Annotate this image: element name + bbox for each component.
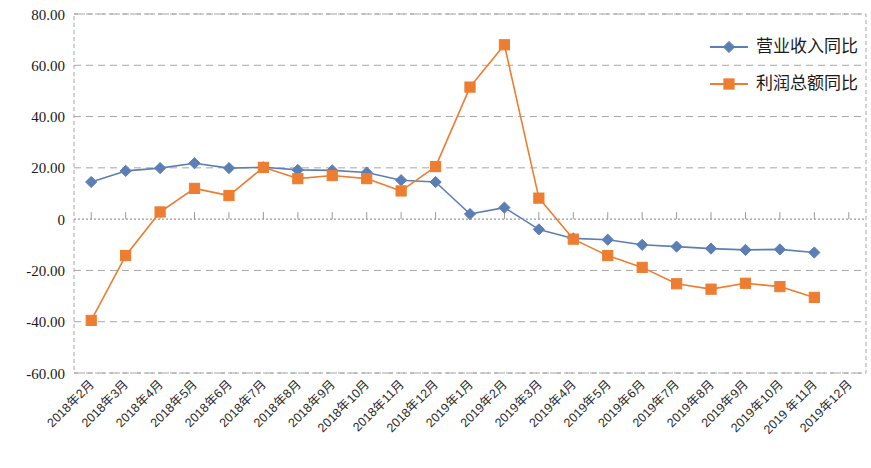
data-point-marker [224, 190, 234, 200]
data-point-marker [86, 315, 96, 325]
data-point-marker [121, 250, 131, 260]
data-point-marker [603, 250, 613, 260]
data-point-marker [568, 234, 578, 244]
y-axis-tick-label: 60.00 [31, 58, 65, 74]
data-point-marker [465, 82, 475, 92]
data-point-marker [189, 183, 199, 193]
data-point-marker [637, 262, 647, 272]
data-point-marker [430, 161, 440, 171]
data-point-marker [362, 174, 372, 184]
data-point-marker [155, 207, 165, 217]
legend-label-2: 利润总额同比 [756, 74, 858, 93]
data-point-marker [293, 174, 303, 184]
data-point-marker [396, 186, 406, 196]
y-axis-tick-label: -20.00 [26, 263, 65, 279]
y-axis-tick-label: 0 [58, 212, 66, 228]
data-point-marker [740, 278, 750, 288]
chart-container: 80.0060.0040.0020.000-20.00-40.00-60.002… [0, 0, 871, 468]
data-point-marker [672, 279, 682, 289]
line-chart: 80.0060.0040.0020.000-20.00-40.00-60.002… [0, 0, 871, 468]
y-axis-tick-label: 40.00 [31, 109, 65, 125]
legend-marker-2 [724, 79, 734, 89]
y-axis-tick-label: -40.00 [26, 314, 65, 330]
data-point-marker [499, 40, 509, 50]
data-point-marker [706, 284, 716, 294]
data-point-marker [534, 193, 544, 203]
data-point-marker [327, 170, 337, 180]
data-point-marker [258, 162, 268, 172]
legend-label-1: 营业收入同比 [756, 37, 858, 56]
data-point-marker [775, 281, 785, 291]
y-axis-tick-label: -60.00 [26, 366, 65, 382]
y-axis-tick-label: 80.00 [31, 7, 65, 23]
y-axis-tick-label: 20.00 [31, 160, 65, 176]
data-point-marker [809, 292, 819, 302]
